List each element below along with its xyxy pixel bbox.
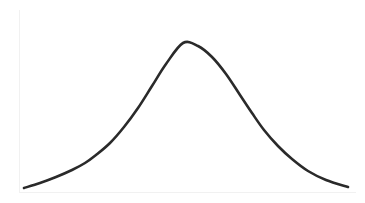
bell-curve-chart: Symmetric bell-shaped normal distributio… — [0, 0, 365, 203]
normal-distribution-curve — [24, 42, 348, 188]
bell-curve-plot-area — [0, 0, 365, 203]
